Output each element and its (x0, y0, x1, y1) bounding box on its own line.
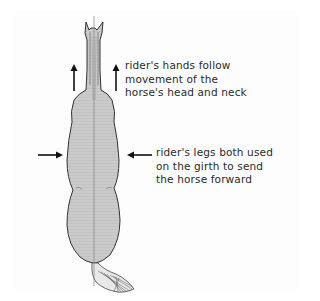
hands-annotation-line-1: rider's hands follow (125, 59, 247, 73)
legs-annotation-line-3: the horse forward (156, 173, 273, 187)
legs-annotation-line-2: on the girth to send (156, 160, 273, 174)
legs-annotation: rider's legs both used on the girth to s… (156, 146, 273, 187)
legs-annotation-line-1: rider's legs both used (156, 146, 273, 160)
horse-tail (92, 263, 134, 292)
hands-annotation-line-2: movement of the (125, 73, 247, 87)
hands-annotation: rider's hands follow movement of the hor… (125, 59, 247, 100)
horse-body (67, 22, 120, 263)
hands-annotation-line-3: horse's head and neck (125, 86, 247, 100)
